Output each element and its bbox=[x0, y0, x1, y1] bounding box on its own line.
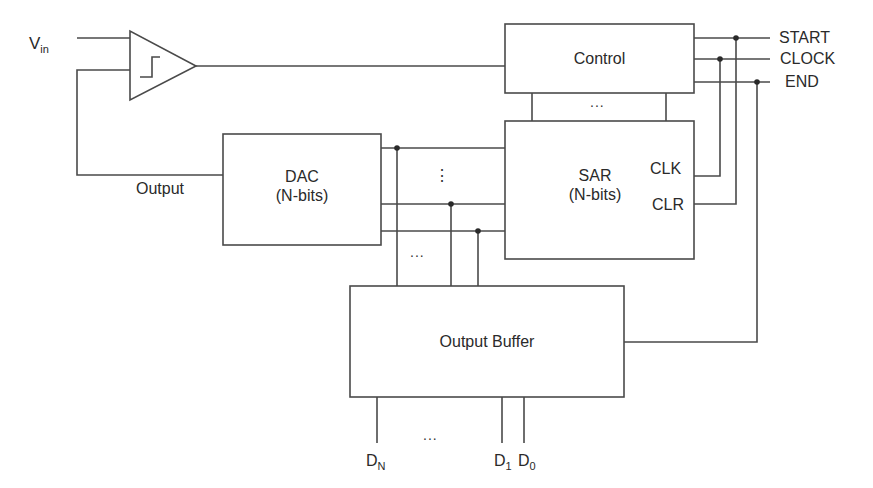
sar-clk-pin-label: CLK bbox=[650, 160, 681, 178]
output-d1-label: D1 bbox=[494, 452, 512, 471]
bit-lines-vertical-ellipsis: ⋮ bbox=[434, 166, 451, 185]
clock-signal-label: CLOCK bbox=[780, 50, 835, 68]
clock-to-clk-wire bbox=[694, 59, 720, 176]
end-signal-label: END bbox=[785, 73, 819, 91]
output-buffer-label: Output Buffer bbox=[350, 333, 624, 351]
output-dn-label: DN bbox=[366, 452, 386, 471]
sar-adc-diagram: Vin Control ... SAR (N-bits) CLK CLR STA… bbox=[0, 0, 873, 488]
sar-bits-label: (N-bits) bbox=[540, 186, 650, 204]
control-sar-bus-ellipsis: ... bbox=[590, 94, 605, 110]
vin-label: Vin bbox=[29, 35, 49, 54]
output-wire-label: Output bbox=[136, 180, 184, 198]
start-signal-label: START bbox=[779, 29, 830, 47]
taps-ellipsis: ... bbox=[410, 244, 425, 260]
diagram-wires bbox=[0, 0, 873, 488]
output-d0-label: D0 bbox=[518, 452, 536, 471]
start-to-clr-wire bbox=[694, 38, 736, 204]
outputs-ellipsis: ... bbox=[423, 427, 438, 443]
sar-label: SAR bbox=[540, 167, 650, 185]
sar-clr-pin-label: CLR bbox=[652, 196, 684, 214]
comparator bbox=[130, 31, 196, 100]
dac-bits-label: (N-bits) bbox=[223, 187, 381, 205]
dac-label: DAC bbox=[223, 168, 381, 186]
control-label: Control bbox=[505, 50, 694, 68]
